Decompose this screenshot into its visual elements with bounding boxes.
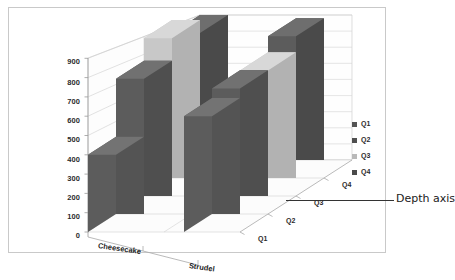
legend-swatch-q2 xyxy=(352,138,357,143)
depth-tick-q4: Q4 xyxy=(342,181,351,189)
y-tick-500: 500 xyxy=(46,136,80,144)
y-tick-900: 900 xyxy=(46,58,80,66)
legend-item-q2[interactable]: Q2 xyxy=(352,132,370,148)
depth-tick-q1: Q1 xyxy=(258,235,267,243)
legend-label-q4: Q4 xyxy=(361,168,370,176)
y-tick-600: 600 xyxy=(46,117,80,125)
depth-tick-q2: Q2 xyxy=(286,217,295,225)
legend-swatch-q1 xyxy=(352,122,357,127)
chart-legend: Q1 Q2 Q3 Q4 xyxy=(352,116,370,180)
legend-item-q1[interactable]: Q1 xyxy=(352,116,370,132)
legend-label-q1: Q1 xyxy=(361,120,370,128)
y-tick-300: 300 xyxy=(46,175,80,183)
y-tick-200: 200 xyxy=(46,194,80,202)
y-tick-400: 400 xyxy=(46,156,80,164)
y-tick-800: 800 xyxy=(46,79,80,87)
legend-swatch-q4 xyxy=(352,170,357,175)
y-tick-700: 700 xyxy=(46,98,80,106)
bar-strudel-q1 xyxy=(184,98,240,232)
y-tick-0: 0 xyxy=(46,232,80,240)
legend-item-q3[interactable]: Q3 xyxy=(352,148,370,164)
depth-tick-q3: Q3 xyxy=(314,199,323,207)
depth-axis-annotation: Depth axis xyxy=(396,192,455,205)
y-tick-100: 100 xyxy=(46,213,80,221)
legend-swatch-q3 xyxy=(352,154,357,159)
legend-label-q3: Q3 xyxy=(361,152,370,160)
legend-label-q2: Q2 xyxy=(361,136,370,144)
legend-item-q4[interactable]: Q4 xyxy=(352,164,370,180)
